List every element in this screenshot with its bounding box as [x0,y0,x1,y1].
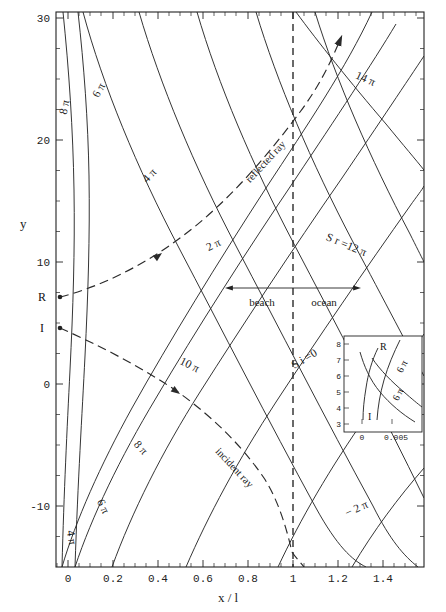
inset-y-tick-label: 8 [336,340,341,349]
y-tick-labels: 30 20 10 0 -10 [30,13,50,513]
inset-y-tick-label: 4 [336,404,341,413]
x-axis-label: x / l [218,590,239,605]
contour-label-8pi-lower: 8 π [132,438,151,457]
detail-inset: 8 7 6 5 4 3 0 0.005 R I 6 π 6 π [336,336,422,442]
x-tick-label: 1 [290,573,297,585]
point-label-I: I [40,321,44,335]
reflected-ray-arrowhead [153,250,164,261]
figure-container: 0 0.2 0.4 0.6 0.8 1 1.2 1.4 30 20 10 0 -… [0,0,446,612]
contour-label-6pi-upper: 6 π [90,81,107,100]
beach-label: beach [249,296,275,308]
contour-label-2pi: 2 π [204,236,222,253]
contour-label-4pi: 4 π [140,166,159,185]
y-axis-label: y [20,216,27,231]
inset-y-tick-label: 3 [336,420,341,429]
ocean-label: ocean [311,296,337,308]
y-tick-label: -10 [30,501,50,513]
reflected-ray-label: reflected ray [243,138,288,185]
inset-y-tick-label: 6 [336,372,341,381]
x-tick-label: 0.8 [238,573,258,585]
point-label-R: R [38,290,46,304]
inset-x-tick-label: 0 [360,433,365,442]
inset-y-tick-label: 5 [336,388,341,397]
x-tick-labels: 0 0.2 0.4 0.6 0.8 1 1.2 1.4 [65,573,394,585]
inset-y-tick-labels: 8 7 6 5 4 3 [336,340,341,429]
contour-label-sr-12pi: S r =12 π [325,230,369,258]
inset-y-tick-label: 7 [336,356,341,365]
x-tick-label: 0 [65,573,72,585]
y-tick-label: 10 [37,257,50,269]
x-tick-label: 0.4 [148,573,168,585]
y-tick-label: 20 [37,135,50,147]
ray-phase-plot-svg: 0 0.2 0.4 0.6 0.8 1 1.2 1.4 30 20 10 0 -… [0,0,446,612]
contour-label-minus-2pi: − 2 π [343,498,370,519]
inset-label-I: I [368,411,371,422]
x-tick-label: 0.6 [193,573,213,585]
contour-label-8pi-upper: 8 π [57,99,72,116]
incident-ray-label: incident ray [214,446,257,491]
x-tick-label: 1.4 [373,573,393,585]
inset-label-R: R [380,341,387,352]
y-tick-label: 30 [37,13,50,25]
y-axis-ticks [56,18,424,537]
x-tick-label: 1.2 [328,573,348,585]
contour-label-10pi: 10 π [178,355,202,375]
contour-label-4pi-lower: 4 π [65,529,79,545]
y-tick-label: 0 [43,379,50,391]
plot-frame [56,12,424,567]
x-tick-label: 0.2 [103,573,123,585]
inset-x-tick-labels: 0 0.005 [360,433,409,442]
contour-label-6pi-lower: 6 π [95,497,112,515]
inset-x-tick-label: 0.005 [384,433,408,442]
